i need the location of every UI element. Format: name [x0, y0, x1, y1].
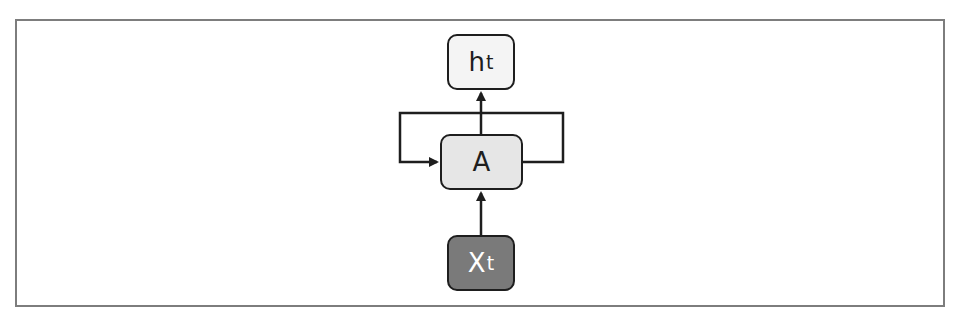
input-label: X [468, 248, 486, 278]
input-subscript: t [487, 252, 494, 274]
output-subscript: t [486, 51, 493, 73]
input-node-xt: Xt [447, 235, 515, 291]
output-node-ht: ht [447, 34, 515, 90]
output-label: h [469, 47, 485, 77]
rnn-cell-node-a: A [440, 134, 523, 190]
cell-label: A [473, 147, 491, 177]
